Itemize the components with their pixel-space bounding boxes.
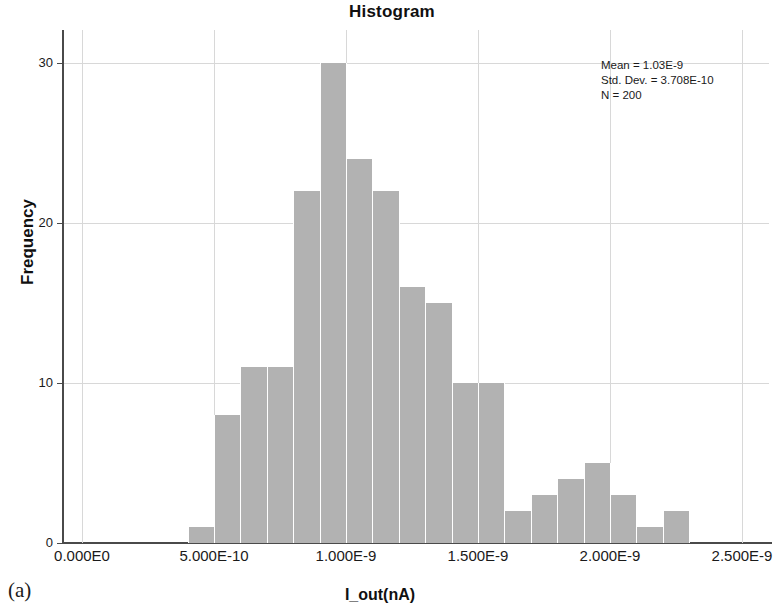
histogram-bar — [372, 191, 399, 543]
histogram-bar — [610, 495, 637, 543]
histogram-bar — [425, 303, 452, 543]
histogram-bar — [663, 511, 690, 543]
x-axis-tick-label: 1.500E-9 — [448, 547, 509, 564]
x-axis-label: I_out(nA) — [260, 586, 500, 604]
y-axis-tick-mark — [57, 543, 64, 544]
histogram-bar — [504, 511, 531, 543]
y-axis-tick-mark — [57, 383, 64, 384]
histogram-bar — [267, 367, 294, 543]
y-axis-tick-label: 30 — [19, 56, 53, 69]
subfigure-label: (a) — [8, 578, 31, 603]
y-axis-tick-label: 0 — [19, 536, 53, 549]
chart-title: Histogram — [0, 2, 784, 22]
stat-mean: Mean = 1.03E-9 — [601, 58, 714, 73]
histogram-bar — [240, 367, 267, 543]
histogram-bar — [557, 479, 584, 543]
stat-n: N = 200 — [601, 88, 714, 103]
x-axis-tick-label: 5.000E-10 — [179, 547, 248, 564]
histogram-bar — [452, 383, 479, 543]
y-axis-tick-label: 10 — [19, 376, 53, 389]
y-axis-tick-mark — [57, 223, 64, 224]
x-axis-tick-label: 2.500E-9 — [712, 547, 773, 564]
histogram-bar — [531, 495, 558, 543]
statistics-annotation: Mean = 1.03E-9 Std. Dev. = 3.708E-10 N =… — [601, 58, 714, 104]
histogram-bar — [320, 63, 347, 543]
x-axis-tick-label: 0.000E0 — [54, 547, 110, 564]
histogram-figure: Histogram 0102030 0.000E05.000E-101.000E… — [0, 0, 784, 614]
y-axis-tick-mark — [57, 63, 64, 64]
histogram-bar — [214, 415, 241, 543]
y-axis-label: Frequency — [18, 162, 38, 322]
histogram-bars — [63, 30, 769, 543]
histogram-bar — [478, 383, 505, 543]
histogram-bar — [399, 287, 426, 543]
histogram-bar — [293, 191, 320, 543]
histogram-bar — [584, 463, 611, 543]
histogram-bar — [636, 527, 663, 543]
x-axis-tick-label: 2.000E-9 — [580, 547, 641, 564]
histogram-bar — [346, 159, 373, 543]
x-axis-tick-label: 1.000E-9 — [316, 547, 377, 564]
plot-area — [63, 30, 769, 543]
stat-std-dev: Std. Dev. = 3.708E-10 — [601, 73, 714, 88]
histogram-bar — [188, 527, 215, 543]
